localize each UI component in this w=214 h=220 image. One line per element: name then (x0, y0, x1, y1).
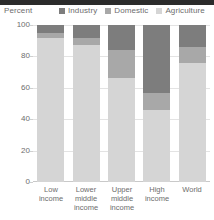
legend-label-industry: Industry (68, 6, 97, 15)
bar-segment[interactable] (179, 47, 206, 63)
bar-segment[interactable] (73, 45, 100, 182)
bar-segment[interactable] (73, 38, 100, 46)
legend-swatch-icon (156, 8, 162, 14)
bar-segment[interactable] (179, 63, 206, 182)
legend-item-industry[interactable]: Industry (59, 6, 97, 15)
y-tick-label: 80 (2, 52, 30, 60)
x-tick-label: World (175, 185, 209, 194)
bar-group[interactable] (73, 25, 100, 182)
legend-item-domestic[interactable]: Domestic (105, 6, 148, 15)
legend-label-domestic: Domestic (114, 6, 148, 15)
y-tick-label: 100 (2, 21, 30, 29)
y-tick-label: 20 (2, 147, 30, 155)
chart-legend: Industry Domestic Agriculture (59, 6, 205, 15)
bar-segment[interactable] (143, 25, 170, 93)
x-tick-label: Lowincome (34, 185, 68, 203)
bar-segment[interactable] (143, 93, 170, 110)
legend-label-agriculture: Agriculture (165, 6, 204, 15)
y-axis: 020406080100 (0, 25, 30, 182)
y-tick-label: 40 (2, 115, 30, 123)
y-tick-label: 0 (2, 178, 30, 186)
y-tick-label: 60 (2, 84, 30, 92)
legend-swatch-icon (105, 8, 111, 14)
bar-segment[interactable] (143, 110, 170, 182)
x-tick-label: Lowermiddleincome (69, 185, 103, 212)
bar-segment[interactable] (108, 78, 135, 182)
bar-group[interactable] (143, 25, 170, 182)
bar-segment[interactable] (37, 25, 64, 33)
chart-container: Percent Industry Domestic Agriculture 02… (0, 0, 214, 220)
x-tick-label: Uppermiddleincome (105, 185, 139, 212)
x-axis-labels: LowincomeLowermiddleincomeUppermiddleinc… (33, 185, 210, 219)
bar-segment[interactable] (73, 25, 100, 38)
bar-segment[interactable] (37, 38, 64, 182)
chart-header: Percent Industry Domestic Agriculture (0, 6, 214, 20)
bar-segment[interactable] (108, 25, 135, 50)
legend-swatch-icon (59, 8, 65, 14)
bars-layer (33, 25, 210, 182)
bar-group[interactable] (179, 25, 206, 182)
window-top-strip (0, 0, 214, 5)
bar-group[interactable] (37, 25, 64, 182)
x-tick-label: Highincome (140, 185, 174, 203)
y-tick-mark (30, 182, 33, 183)
bar-group[interactable] (108, 25, 135, 182)
bar-segment[interactable] (179, 25, 206, 47)
legend-item-agriculture[interactable]: Agriculture (156, 6, 204, 15)
axis-unit-label: Percent (4, 6, 32, 15)
plot-area (33, 25, 210, 182)
bar-segment[interactable] (108, 50, 135, 78)
